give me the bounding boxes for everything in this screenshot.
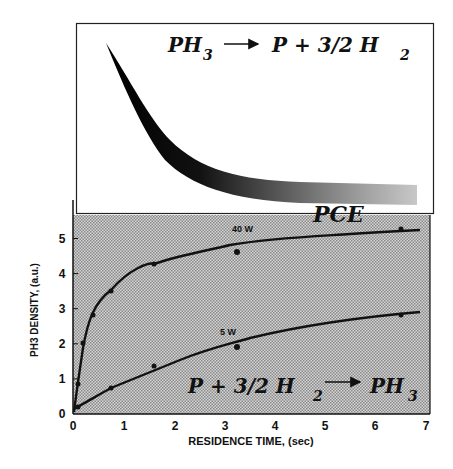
bottom-eq-reactant-sub: 2: [312, 388, 323, 404]
pce-label: PCE: [312, 201, 365, 227]
y-tick-3: 3: [59, 302, 66, 316]
x-ticks: 0 1 2 3 4 5 6 7: [70, 419, 430, 433]
y-tick-4: 4: [59, 267, 66, 281]
x-tick-6: 6: [372, 419, 379, 433]
y-tick-2: 2: [59, 337, 66, 351]
x-tick-7: 7: [423, 419, 430, 433]
upper-panel: PH 3 P + 3/2 H 2: [77, 24, 434, 214]
y-tick-1: 1: [59, 372, 66, 386]
series-40w-label: 40 W: [232, 224, 254, 234]
x-tick-2: 2: [172, 419, 179, 433]
top-eq-reactant-sub: 3: [203, 47, 213, 63]
x-tick-4: 4: [272, 419, 279, 433]
x-tick-1: 1: [121, 419, 128, 433]
top-eq-product-sub: 2: [399, 47, 410, 63]
top-eq-reactant: PH: [167, 33, 203, 57]
top-eq-product: P + 3/2 H: [271, 33, 380, 57]
lower-plot: 5 4 3 2 1 0 0 1 2 3 4 5 6 7 RESIDENCE TI…: [29, 200, 430, 447]
y-tick-0: 0: [59, 407, 66, 421]
x-tick-0: 0: [70, 419, 77, 433]
figure: PH 3 P + 3/2 H 2 5 4 3 2 1 0 0: [0, 0, 453, 469]
series-5w-label: 5 W: [220, 327, 237, 337]
bottom-eq-product: PH: [369, 374, 405, 398]
y-tick-5: 5: [59, 232, 66, 246]
y-axis-label: PH3 DENSITY, (a.u.): [29, 263, 40, 357]
bottom-eq-product-sub: 3: [408, 388, 418, 404]
x-axis-label: RESIDENCE TIME, (sec): [188, 435, 314, 447]
x-tick-5: 5: [322, 419, 329, 433]
x-tick-3: 3: [222, 419, 229, 433]
bottom-eq-reactant: P + 3/2 H: [187, 374, 296, 398]
